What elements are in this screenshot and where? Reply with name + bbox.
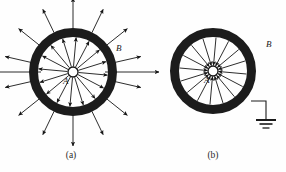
label-A-panel-a: A [62,76,69,86]
figure-background [0,0,286,172]
central-hub-a [68,67,78,77]
label-A-panel-b: A [203,75,210,85]
label-B-panel-a: B [116,43,122,53]
label-B-panel-b: B [266,39,272,49]
central-hub-b [208,66,218,76]
physics-figure-canvas: A B (a) A B (b) [0,0,286,172]
caption-panel-a: (a) [66,150,77,161]
caption-panel-b: (b) [207,150,218,161]
